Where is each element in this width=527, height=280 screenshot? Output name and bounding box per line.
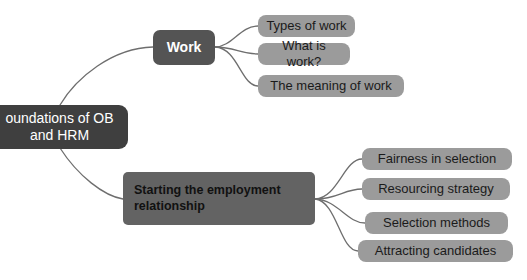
edge-work-to-types-of-work (215, 26, 258, 47)
root-node-label: oundations of OBand HRM (0, 110, 128, 144)
edge-work-to-the-meaning-of-work (215, 47, 258, 86)
leaf-node-fairness-in-selection-label: Fairness in selection (369, 151, 505, 167)
leaf-node-selection-methods-label: Selection methods (372, 215, 501, 231)
branch-node-work-label: Work (153, 39, 215, 56)
branch-node-work[interactable]: Work (153, 30, 215, 65)
edge-starting-to-selection-methods (315, 199, 365, 223)
leaf-node-the-meaning-of-work-label: The meaning of work (265, 78, 397, 94)
branch-node-starting-the-employment-relationship[interactable]: Starting the employmentrelationship (123, 172, 315, 225)
edge-root-to-starting (60, 148, 123, 199)
leaf-node-attracting-candidates[interactable]: Attracting candidates (358, 240, 513, 262)
mind-map-canvas: oundations of OBand HRM Work Types of wo… (0, 0, 527, 280)
leaf-node-attracting-candidates-label: Attracting candidates (365, 243, 506, 259)
leaf-node-types-of-work-label: Types of work (265, 18, 348, 34)
leaf-node-the-meaning-of-work[interactable]: The meaning of work (258, 75, 404, 97)
edge-starting-to-resourcing-strategy (315, 189, 362, 199)
leaf-node-selection-methods[interactable]: Selection methods (365, 212, 508, 234)
edge-work-to-what-is-work (215, 47, 258, 54)
edge-starting-to-attracting-candidates (315, 199, 358, 251)
branch-node-starting-the-employment-relationship-label: Starting the employmentrelationship (134, 183, 315, 214)
leaf-node-resourcing-strategy[interactable]: Resourcing strategy (362, 178, 510, 200)
edge-root-to-work (60, 47, 153, 105)
leaf-node-types-of-work[interactable]: Types of work (258, 15, 355, 37)
root-node-foundations-of-ob-and-hrm[interactable]: oundations of OBand HRM (0, 105, 128, 149)
leaf-node-what-is-work[interactable]: What is work? (258, 43, 350, 65)
leaf-node-resourcing-strategy-label: Resourcing strategy (369, 181, 503, 197)
edge-starting-to-fairness-in-selection (315, 159, 362, 199)
leaf-node-what-is-work-label: What is work? (265, 38, 343, 70)
leaf-node-fairness-in-selection[interactable]: Fairness in selection (362, 148, 512, 170)
